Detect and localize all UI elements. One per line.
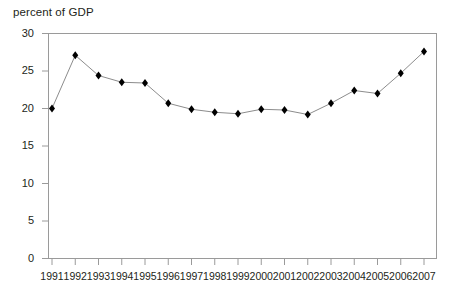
x-tick-label: 2002 (296, 270, 319, 282)
y-tick-label: 0 (8, 252, 34, 264)
data-point (328, 99, 334, 107)
data-point (398, 69, 404, 77)
y-tick-label: 30 (8, 27, 34, 39)
data-point (165, 99, 171, 107)
series-line (52, 52, 424, 115)
data-point (258, 105, 264, 113)
data-point (305, 111, 311, 119)
x-tick-label: 2001 (273, 270, 296, 282)
data-point (421, 48, 427, 56)
x-tick-label: 1993 (87, 270, 110, 282)
series-markers (49, 48, 427, 119)
x-tick-label: 1997 (180, 270, 203, 282)
x-tick-label: 2004 (343, 270, 366, 282)
y-tick-label: 25 (8, 64, 34, 76)
x-tick-label: 2005 (366, 270, 389, 282)
y-axis-ticks (42, 34, 49, 259)
x-tick-label: 2000 (250, 270, 273, 282)
x-tick-label: 2007 (412, 270, 435, 282)
x-tick-label: 2003 (319, 270, 342, 282)
chart-container: percent of GDP 051015202530 199119921993… (0, 0, 451, 298)
y-tick-label: 10 (8, 177, 34, 189)
data-point (375, 90, 381, 98)
data-point (282, 106, 288, 114)
data-point (119, 78, 125, 86)
x-tick-label: 1994 (110, 270, 133, 282)
plot-area (0, 0, 451, 298)
y-tick-label: 5 (8, 214, 34, 226)
data-point (189, 105, 195, 113)
x-axis-ticks (52, 259, 424, 266)
x-tick-label: 1995 (133, 270, 156, 282)
x-tick-label: 1992 (64, 270, 87, 282)
data-point (212, 108, 218, 116)
y-tick-label: 15 (8, 139, 34, 151)
data-point (235, 110, 241, 118)
data-point (96, 72, 102, 80)
x-tick-label: 1998 (203, 270, 226, 282)
x-tick-label: 2006 (389, 270, 412, 282)
y-tick-label: 20 (8, 102, 34, 114)
x-tick-label: 1999 (226, 270, 249, 282)
plot-frame (48, 34, 437, 259)
data-point (72, 51, 78, 59)
x-tick-label: 1996 (157, 270, 180, 282)
data-point (351, 87, 357, 95)
data-point (49, 105, 55, 113)
x-tick-label: 1991 (40, 270, 63, 282)
data-point (142, 79, 148, 87)
